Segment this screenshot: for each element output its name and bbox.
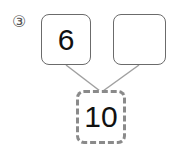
connector-left xyxy=(66,65,100,91)
whole-box: 10 xyxy=(76,90,126,144)
connector-right xyxy=(103,65,139,91)
part-left-value: 6 xyxy=(58,23,75,57)
part-box-left: 6 xyxy=(41,14,91,65)
part-box-right-empty[interactable] xyxy=(113,14,166,65)
whole-value: 10 xyxy=(84,100,117,134)
problem-number: ③ xyxy=(12,13,26,31)
